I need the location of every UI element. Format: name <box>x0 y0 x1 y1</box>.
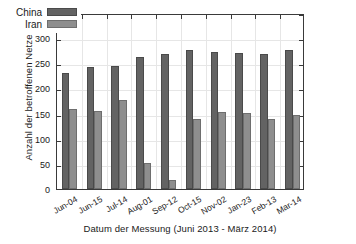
bar-china-jun-04 <box>62 73 70 189</box>
bar-china-nov-02 <box>211 52 219 189</box>
gridline-vertical <box>82 15 83 189</box>
y-tick-left <box>57 166 61 167</box>
x-tick-top <box>107 15 108 19</box>
chart-legend: China Iran <box>12 4 81 33</box>
bar-iran-oct-15 <box>193 119 201 189</box>
legend-item-iran: Iran <box>16 18 77 30</box>
y-tick-label: 300 <box>35 34 50 44</box>
bar-china-oct-15 <box>186 50 194 189</box>
y-tick-label: 100 <box>35 135 50 145</box>
y-tick-left <box>57 141 61 142</box>
gridline-vertical <box>107 15 108 189</box>
y-tick-left <box>57 116 61 117</box>
y-tick-label: 50 <box>40 160 50 170</box>
bar-iran-feb-13 <box>268 119 276 189</box>
x-tick-top <box>231 15 232 19</box>
bar-iran-jun-04 <box>69 109 77 189</box>
y-tick-left <box>57 65 61 66</box>
y-tick-label: 250 <box>35 59 50 69</box>
bar-chart-figure: Anzahl der betroffenen Netze Datum der M… <box>0 0 356 244</box>
bar-china-jul-14 <box>111 66 119 189</box>
y-tick-left <box>57 40 61 41</box>
gridline-vertical <box>255 15 256 189</box>
bar-iran-sep-12 <box>169 180 177 189</box>
bar-china-aug-01 <box>136 57 144 189</box>
x-tick-top <box>156 15 157 19</box>
x-tick-top <box>82 15 83 19</box>
gridline-vertical <box>231 15 232 189</box>
gridline-horizontal <box>57 40 303 41</box>
y-tick-right <box>299 65 303 66</box>
x-tick-top <box>280 15 281 19</box>
y-tick-label: 150 <box>35 110 50 120</box>
bar-iran-jun-15 <box>94 111 102 189</box>
bar-iran-jul-14 <box>119 100 127 190</box>
y-axis-title: Anzahl der betroffenen Netze <box>23 8 34 188</box>
legend-item-china: China <box>16 6 77 18</box>
legend-label-china: China <box>16 7 42 18</box>
y-tick-left <box>57 90 61 91</box>
bar-china-mar-14 <box>285 50 293 189</box>
bar-china-jun-15 <box>87 67 95 189</box>
bar-china-jan-23 <box>235 53 243 189</box>
legend-swatch-iran <box>47 20 77 28</box>
x-tick-top <box>181 15 182 19</box>
y-tick-label: 0 <box>45 185 50 195</box>
bar-iran-mar-14 <box>293 115 301 189</box>
y-tick-label: 200 <box>35 84 50 94</box>
bar-iran-jan-23 <box>243 113 251 189</box>
x-tick-top <box>206 15 207 19</box>
gridline-vertical <box>206 15 207 189</box>
plot-area <box>56 14 304 190</box>
y-tick-right <box>299 15 303 16</box>
bar-iran-aug-01 <box>144 163 152 189</box>
legend-label-iran: Iran <box>25 19 42 30</box>
gridline-vertical <box>280 15 281 189</box>
bar-china-feb-13 <box>260 54 268 189</box>
x-axis-title: Datum der Messung (Juni 2013 - März 2014… <box>56 223 304 234</box>
x-tick-top <box>131 15 132 19</box>
gridline-vertical <box>181 15 182 189</box>
gridline-vertical <box>131 15 132 189</box>
gridline-vertical <box>156 15 157 189</box>
y-tick-right <box>299 40 303 41</box>
x-tick-top <box>255 15 256 19</box>
bar-iran-nov-02 <box>218 112 226 189</box>
y-tick-right <box>299 90 303 91</box>
legend-swatch-china <box>47 8 77 16</box>
bar-china-sep-12 <box>161 54 169 189</box>
